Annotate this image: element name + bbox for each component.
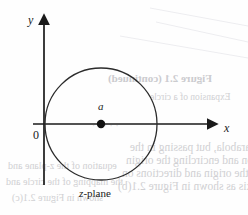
figure-caption: z-plane (0, 188, 190, 199)
scan-artifact-lines (120, 8, 248, 58)
caption-plane-text: -plane (83, 187, 110, 199)
origin-label: 0 (33, 129, 39, 141)
x-axis-label: x (224, 122, 229, 134)
center-point-dot (97, 120, 105, 128)
figure-container: Figure 2.1 (continued) Expansion of a ci… (0, 0, 248, 215)
y-axis-label: y (28, 14, 33, 26)
coordinate-plane-diagram (0, 0, 248, 215)
center-point-label: a (98, 101, 104, 112)
